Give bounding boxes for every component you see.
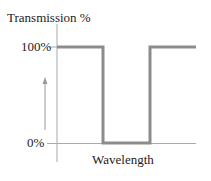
x-axis-label: Wavelength	[92, 152, 154, 168]
tick-label-0: 0%	[27, 135, 44, 151]
tick-label-100: 100%	[21, 39, 51, 55]
transmission-curve	[57, 47, 196, 143]
y-axis-label: Transmission %	[7, 10, 91, 26]
arrow-up-icon	[43, 77, 48, 84]
